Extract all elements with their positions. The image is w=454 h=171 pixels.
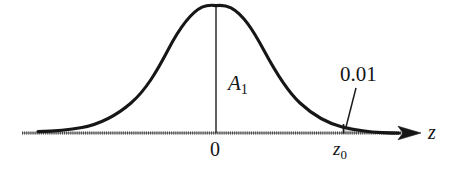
critical-value-label: z0 (333, 139, 347, 158)
normal-distribution-figure: A1 0 z0 0.01 z (0, 0, 454, 171)
area-label-A1: A1 (228, 73, 248, 94)
origin-label: 0 (210, 139, 220, 159)
area-label-A1-subscript: 1 (241, 81, 248, 97)
tail-callout-leader-line (346, 88, 357, 129)
normal-curve-graphic (0, 0, 454, 171)
tail-probability-label: 0.01 (340, 64, 377, 85)
axis-label-z: z (428, 122, 436, 142)
critical-value-label-subscript: 0 (340, 147, 346, 162)
area-label-A1-base: A (228, 71, 241, 95)
